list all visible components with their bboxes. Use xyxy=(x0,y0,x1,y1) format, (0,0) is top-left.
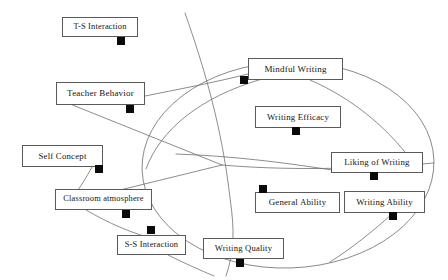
node-ss-interaction[interactable]: S-S Interaction xyxy=(117,235,186,255)
spoke-center-self xyxy=(112,165,222,192)
indicator-marker-ss-interaction xyxy=(147,226,155,234)
node-teacher-behavior[interactable]: Teacher Behavior xyxy=(56,82,145,105)
path-diagram: T-S InteractionTeacher BehaviorSelf Conc… xyxy=(0,0,448,280)
indicator-marker-ts-interaction xyxy=(117,37,125,45)
node-label-writing-ability: Writing Ability xyxy=(356,198,413,207)
indicator-marker-writing-quality xyxy=(236,259,244,267)
spoke-liking-left xyxy=(176,154,332,170)
node-classroom-atmosphere[interactable]: Classroom atmosphere xyxy=(55,189,152,210)
node-label-general-ability: General Ability xyxy=(269,198,326,207)
node-mindful-writing[interactable]: Mindful Writing xyxy=(248,58,343,80)
indicator-marker-writing-ability xyxy=(389,212,397,220)
node-liking-of-writing[interactable]: Liking of Writing xyxy=(331,152,423,173)
node-ts-interaction[interactable]: T-S Interaction xyxy=(62,17,138,37)
spoke-teacher-upper xyxy=(145,74,248,96)
spoke-self-classroom xyxy=(78,167,92,190)
indicator-marker-liking-of-writing xyxy=(370,172,378,180)
indicator-marker-mindful-writing xyxy=(240,76,248,84)
node-writing-quality[interactable]: Writing Quality xyxy=(203,238,284,259)
node-label-writing-quality: Writing Quality xyxy=(215,244,272,253)
spoke-writing-ability-down xyxy=(330,214,392,262)
node-label-liking-of-writing: Liking of Writing xyxy=(344,158,409,167)
node-self-concept[interactable]: Self Concept xyxy=(22,145,103,167)
node-label-teacher-behavior: Teacher Behavior xyxy=(67,89,134,98)
indicator-marker-classroom-atmosphere xyxy=(122,210,130,218)
partition-vertical xyxy=(185,13,233,276)
indicator-marker-teacher-behavior xyxy=(126,105,134,113)
node-label-ss-interaction: S-S Interaction xyxy=(125,241,178,249)
node-label-self-concept: Self Concept xyxy=(38,152,86,161)
indicator-marker-general-ability xyxy=(259,185,267,193)
node-label-ts-interaction: T-S Interaction xyxy=(73,23,126,31)
node-general-ability[interactable]: General Ability xyxy=(255,192,340,213)
node-label-writing-efficacy: Writing Efficacy xyxy=(267,113,329,122)
node-label-classroom-atmosphere: Classroom atmosphere xyxy=(63,195,144,203)
node-writing-ability[interactable]: Writing Ability xyxy=(344,191,425,213)
node-label-mindful-writing: Mindful Writing xyxy=(264,65,326,74)
node-writing-efficacy[interactable]: Writing Efficacy xyxy=(255,106,341,128)
spoke-classroom-ss xyxy=(86,210,150,238)
indicator-marker-writing-efficacy xyxy=(292,127,300,135)
indicator-marker-self-concept xyxy=(95,165,103,173)
